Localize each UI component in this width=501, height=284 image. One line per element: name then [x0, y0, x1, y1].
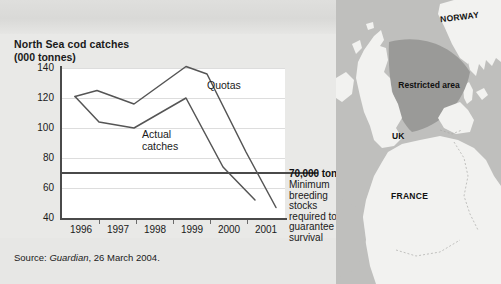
series-label-actual-catches: Actual catches	[142, 128, 188, 152]
map-panel: NORWAY UK FRANCE Restricted area	[336, 0, 501, 284]
map-label-france: FRANCE	[391, 191, 428, 201]
source-suffix: , 26 March 2004.	[88, 252, 159, 263]
cod-catches-figure: North Sea cod catches (000 tonnes) 140 1…	[0, 0, 501, 284]
series-label-quotas: Quotas	[207, 79, 241, 91]
chart-panel: North Sea cod catches (000 tonnes) 140 1…	[0, 0, 330, 284]
map-label-restricted-area: Restricted area	[394, 80, 464, 90]
map-svg	[336, 0, 501, 284]
source-note: Source: Guardian, 26 March 2004.	[14, 252, 160, 263]
source-prefix: Source:	[14, 252, 49, 263]
source-publication: Guardian	[49, 252, 88, 263]
map-label-uk: UK	[392, 131, 405, 141]
